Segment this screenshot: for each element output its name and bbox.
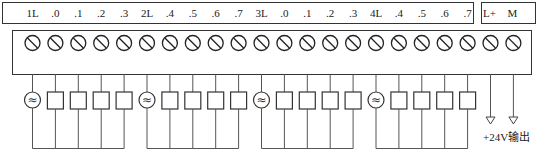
load-icon	[231, 92, 247, 109]
terminal-label: .6	[441, 7, 450, 19]
output-group: ≈	[254, 75, 362, 149]
terminal-label: 2L	[141, 7, 154, 19]
terminal-label: .3	[120, 7, 129, 19]
terminal-label: .3	[349, 7, 358, 19]
screw-icon	[460, 36, 475, 51]
terminal-label: .6	[212, 7, 221, 19]
load-icon	[93, 92, 109, 109]
screw-icon	[71, 36, 86, 51]
screw-icon	[323, 36, 338, 51]
screw-icon	[254, 36, 269, 51]
terminal-label: .4	[395, 7, 404, 19]
svg-text:≈: ≈	[142, 93, 152, 107]
load-icon	[185, 92, 201, 109]
terminal-label: .4	[166, 7, 175, 19]
terminal-screws	[25, 36, 521, 51]
screw-icon	[208, 36, 223, 51]
screw-icon	[277, 36, 292, 51]
output-24v-label: +24V输出	[483, 130, 530, 143]
screw-icon	[25, 36, 40, 51]
screw-icon	[48, 36, 63, 51]
svg-text:≈: ≈	[371, 93, 381, 107]
plc-output-wiring-diagram: 1L.0.1.2.32L.4.5.6.73L.0.1.2.34L.4.5.6.7…	[0, 0, 537, 161]
load-icon	[391, 92, 407, 109]
load-icon	[116, 92, 132, 109]
screw-icon	[346, 36, 361, 51]
terminal-block	[13, 31, 532, 75]
screw-icon	[185, 36, 200, 51]
screw-icon	[506, 36, 521, 51]
terminal-label: .1	[74, 7, 82, 19]
screw-icon	[437, 36, 452, 51]
load-icon	[322, 92, 338, 109]
load-icon	[414, 92, 430, 109]
power-label: L+	[483, 7, 496, 19]
screw-icon	[369, 36, 384, 51]
load-icon	[437, 92, 453, 109]
terminal-label: .7	[234, 7, 243, 19]
load-icon	[47, 92, 63, 109]
screw-icon	[391, 36, 406, 51]
screw-icon	[300, 36, 315, 51]
load-icon	[208, 92, 224, 109]
wiring: ≈≈≈≈	[25, 75, 518, 149]
terminal-labels: 1L.0.1.2.32L.4.5.6.73L.0.1.2.34L.4.5.6.7	[26, 7, 472, 19]
output-group: ≈	[368, 75, 476, 149]
svg-text:≈: ≈	[256, 93, 266, 107]
terminal-label: .0	[280, 7, 289, 19]
load-icon	[460, 92, 476, 109]
ac-source-icon: ≈	[254, 92, 270, 108]
terminal-label: .5	[189, 7, 198, 19]
output-arrow-icon	[486, 75, 495, 125]
screw-icon	[414, 36, 429, 51]
terminal-label: 4L	[370, 7, 383, 19]
terminal-label: .5	[418, 7, 427, 19]
output-arrow-icon	[509, 75, 518, 125]
load-icon	[345, 92, 361, 109]
terminal-label: .0	[51, 7, 60, 19]
ac-source-icon: ≈	[139, 92, 155, 108]
screw-icon	[231, 36, 246, 51]
screw-icon	[162, 36, 177, 51]
power-labels: L+M	[483, 7, 517, 19]
terminal-label: 3L	[255, 7, 268, 19]
load-icon	[299, 92, 315, 109]
load-icon	[70, 92, 86, 109]
ac-source-icon: ≈	[25, 92, 41, 108]
terminal-label: 1L	[26, 7, 39, 19]
screw-icon	[140, 36, 155, 51]
output-group: ≈	[25, 75, 133, 149]
ac-source-icon: ≈	[368, 92, 384, 108]
screw-icon	[117, 36, 132, 51]
power-label: M	[508, 7, 518, 19]
screw-icon	[483, 36, 498, 51]
terminal-label: .2	[326, 7, 334, 19]
load-icon	[276, 92, 292, 109]
output-group: ≈	[139, 75, 247, 149]
load-icon	[162, 92, 178, 109]
terminal-label: .7	[463, 7, 472, 19]
terminal-label: .1	[303, 7, 311, 19]
terminal-label: .2	[97, 7, 105, 19]
screw-icon	[94, 36, 109, 51]
svg-text:≈: ≈	[27, 93, 37, 107]
